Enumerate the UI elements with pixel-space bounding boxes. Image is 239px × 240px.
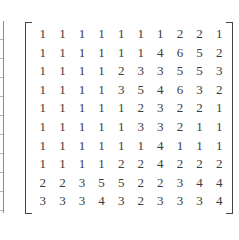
matrix-cell: 1 [92,81,112,100]
matrix-cell: 2 [111,155,131,174]
matrix-cell: 1 [92,25,112,44]
matrix-cell: 3 [190,81,210,100]
matrix-cell: 1 [92,155,112,174]
matrix-cell: 4 [92,192,112,211]
matrix-cell: 2 [190,25,210,44]
matrix-cell: 2 [131,174,151,193]
matrix-cell: 4 [151,137,171,156]
matrix-cell: 2 [131,192,151,211]
matrix-cell: 6 [170,81,190,100]
matrix-cell: 1 [111,44,131,63]
matrix-cell: 1 [209,25,229,44]
matrix-cell: 1 [33,118,53,137]
matrix-cell: 1 [33,44,53,63]
matrix-cell: 1 [92,62,112,81]
matrix-cell: 3 [111,81,131,100]
left-bracket [25,22,32,214]
matrix-cell: 1 [92,99,112,118]
matrix-cell: 1 [53,155,73,174]
matrix-cell: 2 [190,155,210,174]
matrix-cell: 5 [190,44,210,63]
matrix-cell: 6 [170,44,190,63]
matrix-cell: 1 [33,81,53,100]
matrix-cell: 1 [53,81,73,100]
matrix: 1111111221111111465211112335531111354632… [33,25,229,211]
matrix-cell: 1 [53,118,73,137]
matrix-cell: 5 [131,81,151,100]
matrix-cell: 1 [53,25,73,44]
matrix-cell: 3 [170,174,190,193]
matrix-cell: 1 [53,44,73,63]
matrix-cell: 3 [53,192,73,211]
matrix-cell: 1 [111,137,131,156]
matrix-cell: 3 [190,192,210,211]
matrix-cell: 1 [72,81,92,100]
matrix-cell: 1 [72,25,92,44]
matrix-cell: 3 [151,118,171,137]
matrix-cell: 3 [151,62,171,81]
matrix-cell: 1 [131,25,151,44]
matrix-cell: 3 [170,192,190,211]
matrix-cell: 1 [72,44,92,63]
matrix-cell: 2 [53,174,73,193]
matrix-cell: 1 [53,62,73,81]
matrix-cell: 1 [111,25,131,44]
matrix-cell: 3 [151,192,171,211]
matrix-cell: 1 [33,155,53,174]
matrix-cell: 2 [209,155,229,174]
matrix-cell: 1 [33,62,53,81]
matrix-cell: 4 [209,192,229,211]
matrix-cell: 1 [111,118,131,137]
matrix-cell: 1 [53,99,73,118]
matrix-cell: 1 [131,44,151,63]
matrix-cell: 1 [209,137,229,156]
matrix-cell: 2 [131,99,151,118]
matrix-cell: 5 [190,62,210,81]
matrix-cell: 3 [151,99,171,118]
matrix-cell: 5 [111,174,131,193]
matrix-cell: 1 [92,137,112,156]
matrix-cell: 2 [131,155,151,174]
matrix-cell: 3 [131,118,151,137]
matrix-cell: 2 [209,44,229,63]
matrix-cell: 2 [170,118,190,137]
matrix-cell: 4 [151,155,171,174]
matrix-cell: 3 [111,192,131,211]
matrix-cell: 1 [170,137,190,156]
matrix-cell: 3 [209,62,229,81]
matrix-cell: 2 [170,99,190,118]
matrix-cell: 2 [33,174,53,193]
matrix-cell: 4 [209,174,229,193]
matrix-cell: 4 [151,81,171,100]
matrix-cell: 1 [190,118,210,137]
matrix-cell: 1 [72,118,92,137]
matrix-cell: 1 [131,137,151,156]
matrix-cell: 3 [131,62,151,81]
matrix-cell: 1 [92,118,112,137]
matrix-cell: 2 [209,81,229,100]
matrix-cell: 2 [111,62,131,81]
matrix-cell: 1 [111,99,131,118]
matrix-cell: 3 [33,192,53,211]
matrix-cell: 1 [209,118,229,137]
matrix-cell: 5 [170,62,190,81]
matrix-cell: 1 [33,25,53,44]
matrix-cell: 1 [72,62,92,81]
matrix-cell: 2 [151,174,171,193]
matrix-cell: 5 [92,174,112,193]
matrix-cell: 2 [190,99,210,118]
matrix-cell: 2 [170,155,190,174]
matrix-cell: 3 [72,174,92,193]
matrix-cell: 1 [72,155,92,174]
matrix-cell: 1 [151,25,171,44]
matrix-cell: 1 [209,99,229,118]
matrix-cell: 3 [72,192,92,211]
matrix-cell: 1 [190,137,210,156]
matrix-cell: 4 [151,44,171,63]
matrix-cell: 1 [72,99,92,118]
adjacent-table-edge [0,21,4,213]
matrix-cell: 1 [33,99,53,118]
matrix-cell: 4 [190,174,210,193]
matrix-cell: 1 [53,137,73,156]
matrix-cell: 1 [72,137,92,156]
